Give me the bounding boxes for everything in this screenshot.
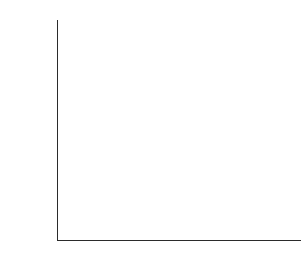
y-axis-line xyxy=(57,20,58,241)
bar-chart xyxy=(0,0,305,277)
x-axis-line xyxy=(57,240,301,241)
y-axis-title xyxy=(0,0,20,247)
